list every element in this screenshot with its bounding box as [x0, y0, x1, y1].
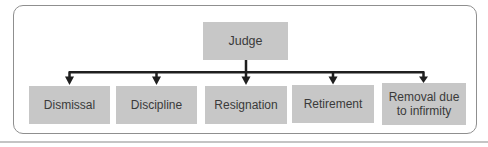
- node-removal-label: Removal due to infirmity: [385, 90, 463, 118]
- node-judge-label: Judge: [228, 34, 262, 48]
- node-retirement: Retirement: [292, 85, 374, 123]
- node-dismissal-label: Dismissal: [44, 98, 95, 112]
- node-removal-due-to-infirmity: Removal due to infirmity: [382, 83, 466, 125]
- node-judge: Judge: [203, 22, 288, 60]
- node-discipline: Discipline: [116, 86, 197, 124]
- node-resignation: Resignation: [205, 86, 287, 124]
- node-retirement-label: Retirement: [304, 97, 363, 111]
- arrowhead-icons: [65, 77, 428, 86]
- node-resignation-label: Resignation: [214, 98, 277, 112]
- page-rule-line: [0, 141, 488, 143]
- node-dismissal: Dismissal: [29, 86, 110, 124]
- node-discipline-label: Discipline: [131, 98, 182, 112]
- figure-canvas: Judge Dismissal Discipline Resignation R…: [0, 0, 488, 147]
